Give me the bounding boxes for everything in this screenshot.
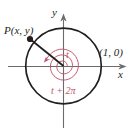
point-p-label: P(x, y)	[4, 25, 33, 36]
y-axis-label: y	[52, 7, 57, 18]
angle-t-plus-2pi-label: t + 2π	[51, 86, 76, 96]
y-axis	[60, 14, 66, 129]
figure-canvas	[0, 0, 133, 137]
intercept-label: (1, 0)	[99, 47, 123, 58]
point-p-marker	[27, 36, 33, 42]
unit-circle-figure: y x P(x, y) (1, 0) t t + 2π	[0, 0, 133, 137]
angle-t-label: t	[66, 50, 69, 60]
x-axis-label: x	[118, 69, 123, 80]
terminal-side-segment	[30, 39, 63, 66]
